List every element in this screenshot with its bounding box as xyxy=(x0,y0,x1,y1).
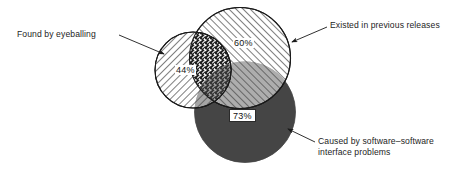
label-interface-line-1: Caused by software–software xyxy=(318,136,434,147)
value-label-interface-problems: 73% xyxy=(229,109,256,122)
leader-line-previous-releases xyxy=(292,27,327,42)
label-caused-by-interface-problems: Caused by software–software interface pr… xyxy=(318,136,434,158)
value-label-eyeballing: 44% xyxy=(175,65,196,75)
leader-line-interface-problems xyxy=(288,129,315,142)
leader-line-eyeballing xyxy=(119,35,164,54)
label-interface-line-2: interface problems xyxy=(318,147,434,158)
label-existed-in-previous-releases: Existed in previous releases xyxy=(330,20,440,31)
venn-diagram-figure: Found by eyeballing Existed in previous … xyxy=(0,0,473,179)
value-label-previous-releases: 60% xyxy=(233,38,254,48)
label-found-by-eyeballing: Found by eyeballing xyxy=(17,29,96,40)
